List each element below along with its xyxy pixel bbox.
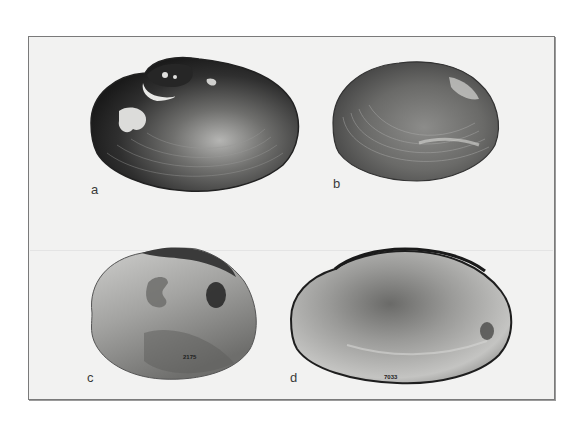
shell-b-image <box>329 57 505 185</box>
panel-label-c: c <box>87 371 94 384</box>
shell-a-image <box>87 53 305 195</box>
figure-plate: a b <box>28 36 555 400</box>
specimen-number-d: 7033 <box>384 374 397 380</box>
shell-d-image <box>287 245 519 387</box>
shell-c-image <box>84 243 262 385</box>
panel-a: a <box>29 37 299 249</box>
panel-b: b <box>299 37 555 249</box>
panel-label-a: a <box>91 183 98 196</box>
panel-d: 7033 d <box>285 251 555 399</box>
panel-c: 2175 c <box>29 251 285 399</box>
specimen-number-c: 2175 <box>183 354 196 360</box>
panel-label-b: b <box>333 177 340 190</box>
panel-label-d: d <box>290 371 297 384</box>
